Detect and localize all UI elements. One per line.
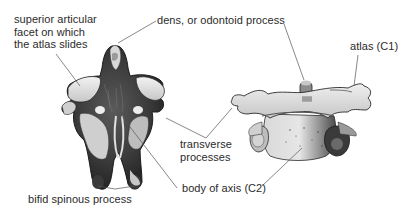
- label-dens: dens, or odontoid process: [157, 14, 285, 27]
- label-transverse-processes: transverse processes: [180, 138, 232, 163]
- leader-dens-right: [284, 24, 304, 80]
- label-line: superior articular: [14, 13, 97, 26]
- label-body-of-axis: body of axis (C2): [182, 182, 266, 195]
- label-line: facet on which: [14, 26, 97, 39]
- label-line: processes: [180, 151, 232, 164]
- label-line: the atlas slides: [14, 38, 97, 51]
- diagram-canvas: superior articular facet on which the at…: [0, 0, 412, 212]
- axis-vertebra-left: [62, 46, 164, 190]
- label-superior-articular-facet: superior articular facet on which the at…: [14, 13, 97, 51]
- label-bifid-spinous-process: bifid spinous process: [28, 193, 132, 206]
- leader-dens-left: [118, 21, 156, 43]
- leader-atlas: [354, 55, 358, 86]
- label-line: transverse: [180, 138, 232, 151]
- leader-superior-facet: [56, 54, 80, 86]
- label-atlas-c1: atlas (C1): [350, 40, 398, 53]
- leader-transverse: [166, 108, 232, 138]
